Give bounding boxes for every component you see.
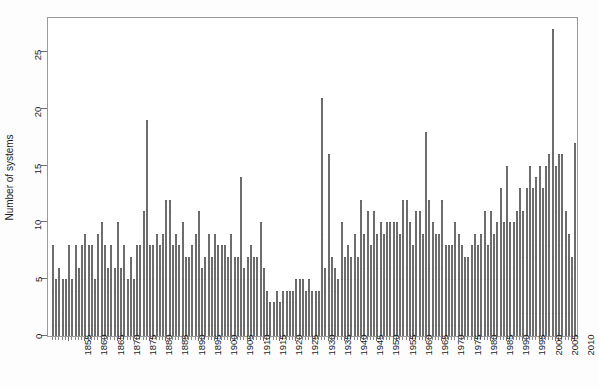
bar-segment-series_1 bbox=[195, 279, 197, 324]
bar-segment-series_2 bbox=[490, 211, 492, 279]
bar bbox=[94, 279, 96, 336]
bar-segment-series_0 bbox=[240, 325, 242, 336]
bar-segment-series_2 bbox=[91, 245, 93, 279]
bar-segment-series_1 bbox=[169, 211, 171, 325]
bar-segment-series_1 bbox=[350, 279, 352, 324]
bar-segment-series_2 bbox=[529, 166, 531, 246]
bar-segment-series_1 bbox=[474, 279, 476, 324]
bar bbox=[62, 279, 64, 336]
bar-segment-series_0 bbox=[321, 325, 323, 336]
bar-segment-series_1 bbox=[555, 211, 557, 313]
bar-segment-series_2 bbox=[328, 154, 330, 279]
bar bbox=[467, 257, 469, 337]
bar bbox=[172, 245, 174, 336]
x-tick bbox=[490, 337, 491, 341]
bar-segment-series_1 bbox=[204, 279, 206, 324]
bar-segment-series_2 bbox=[159, 245, 161, 268]
y-tick-label: 5 bbox=[33, 277, 43, 282]
bar bbox=[299, 279, 301, 336]
x-tick bbox=[539, 337, 540, 341]
bar bbox=[305, 291, 307, 336]
bar-segment-series_1 bbox=[88, 268, 90, 325]
x-tick bbox=[522, 337, 523, 341]
bar-segment-series_0 bbox=[532, 313, 534, 336]
bar-segment-series_1 bbox=[305, 302, 307, 325]
bar bbox=[337, 279, 339, 336]
bar-segment-series_2 bbox=[94, 279, 96, 290]
bar-segment-series_0 bbox=[386, 325, 388, 336]
bar bbox=[441, 200, 443, 336]
bar-segment-series_0 bbox=[71, 325, 73, 336]
bar bbox=[143, 211, 145, 336]
x-tick-label: 2010 bbox=[586, 334, 596, 355]
x-minor-tick bbox=[58, 337, 59, 340]
bar-segment-series_0 bbox=[526, 313, 528, 336]
bar-segment-series_2 bbox=[409, 222, 411, 267]
bar-segment-series_2 bbox=[256, 257, 258, 280]
bar bbox=[535, 177, 537, 336]
bar-segment-series_1 bbox=[211, 279, 213, 324]
y-tick-label: 15 bbox=[33, 163, 43, 174]
bar bbox=[354, 234, 356, 336]
bar-segment-series_1 bbox=[542, 257, 544, 314]
bar bbox=[240, 177, 242, 336]
bar bbox=[282, 291, 284, 336]
bar-segment-series_1 bbox=[425, 268, 427, 325]
bar bbox=[78, 268, 80, 336]
bar-segment-series_2 bbox=[571, 257, 573, 280]
bar-segment-series_1 bbox=[396, 268, 398, 325]
bar bbox=[68, 245, 70, 336]
bar bbox=[230, 234, 232, 336]
bar-segment-series_2 bbox=[68, 245, 70, 279]
bar bbox=[276, 291, 278, 336]
bar-segment-series_1 bbox=[221, 268, 223, 325]
bar bbox=[169, 200, 171, 336]
x-minor-tick bbox=[337, 337, 338, 340]
bar-segment-series_1 bbox=[389, 268, 391, 325]
bar-segment-series_2 bbox=[62, 279, 64, 313]
bar-segment-series_2 bbox=[419, 211, 421, 279]
bar-segment-series_0 bbox=[519, 313, 521, 336]
bar-segment-series_2 bbox=[386, 222, 388, 279]
bar bbox=[247, 257, 249, 337]
bar-segment-series_1 bbox=[198, 279, 200, 324]
bar-segment-series_1 bbox=[415, 268, 417, 325]
bar-segment-series_2 bbox=[295, 279, 297, 302]
bar-segment-series_1 bbox=[451, 279, 453, 324]
x-tick bbox=[409, 337, 410, 341]
bar bbox=[373, 211, 375, 336]
x-minor-tick bbox=[419, 337, 420, 340]
bar bbox=[324, 268, 326, 336]
bar-segment-series_1 bbox=[519, 257, 521, 314]
bar-segment-series_1 bbox=[243, 279, 245, 324]
bar-segment-series_1 bbox=[376, 268, 378, 325]
bar bbox=[542, 188, 544, 336]
bar bbox=[117, 222, 119, 336]
bar-segment-series_2 bbox=[412, 245, 414, 279]
bar-segment-series_1 bbox=[503, 279, 505, 324]
bar bbox=[273, 302, 275, 336]
bar-segment-series_0 bbox=[539, 313, 541, 336]
bar bbox=[344, 257, 346, 337]
bar-segment-series_2 bbox=[350, 257, 352, 280]
bar-segment-series_1 bbox=[175, 268, 177, 325]
bar-segment-series_2 bbox=[58, 268, 60, 291]
bar bbox=[334, 268, 336, 336]
bar bbox=[477, 245, 479, 336]
bar-segment-series_1 bbox=[120, 279, 122, 324]
bar bbox=[555, 166, 557, 336]
bar-segment-series_0 bbox=[435, 325, 437, 336]
bar bbox=[393, 222, 395, 336]
x-tick bbox=[555, 337, 556, 341]
bar-segment-series_1 bbox=[539, 245, 541, 313]
bar-segment-series_1 bbox=[289, 302, 291, 325]
bar-segment-series_0 bbox=[62, 325, 64, 336]
x-tick bbox=[312, 337, 313, 341]
bar bbox=[363, 234, 365, 336]
bar bbox=[500, 188, 502, 336]
bar bbox=[548, 154, 550, 336]
bar bbox=[509, 222, 511, 336]
bar-segment-series_2 bbox=[458, 234, 460, 279]
x-minor-tick bbox=[370, 337, 371, 340]
bar-segment-series_0 bbox=[552, 313, 554, 336]
